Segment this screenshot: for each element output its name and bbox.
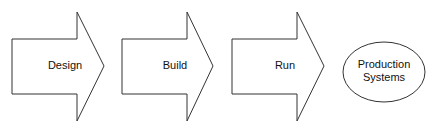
step-label-run: Run bbox=[250, 59, 320, 72]
step-label-design: Design bbox=[30, 59, 100, 72]
target-label-line2: Systems bbox=[344, 71, 424, 84]
target-label: Production Systems bbox=[344, 58, 424, 84]
step-label-build: Build bbox=[140, 59, 210, 72]
target-label-line1: Production bbox=[344, 58, 424, 71]
